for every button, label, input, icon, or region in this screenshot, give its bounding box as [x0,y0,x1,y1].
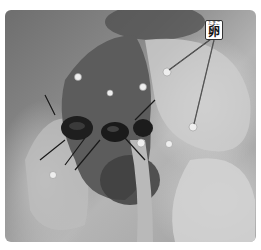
stink-bug-left [61,116,93,140]
insect-eggs-photo [5,10,256,242]
egg-label-text: 卵 [206,26,222,39]
stink-bug-right [133,119,153,137]
stink-bug-center [101,122,129,142]
photo-scene [5,10,256,242]
egg-label: たまご 卵 [205,20,223,40]
